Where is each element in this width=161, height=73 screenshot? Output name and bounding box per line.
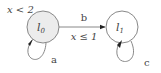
edge-action-label: b bbox=[81, 12, 87, 23]
edge-guard-label: x ≤ 1 bbox=[71, 31, 98, 42]
invariant-label: x < 2 bbox=[7, 4, 34, 15]
loop-action-a: a bbox=[51, 54, 57, 65]
automaton-diagram: x < 2 b x ≤ 1 l0 a l1 c bbox=[0, 0, 161, 73]
loop-action-c: c bbox=[144, 57, 150, 68]
